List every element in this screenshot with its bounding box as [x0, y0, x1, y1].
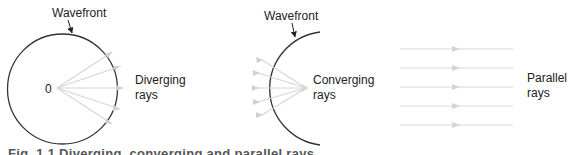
diverging-rays-label-line2: rays: [135, 88, 158, 102]
parallel-rays-label-line2: rays: [527, 86, 550, 100]
spherical-wavefront-circle: [8, 34, 118, 144]
ray: [258, 88, 306, 102]
parallel-panel: Parallel rays: [400, 46, 567, 128]
ray-arrowhead: [113, 105, 120, 111]
converging-rays: [252, 57, 309, 118]
ray: [57, 88, 120, 109]
wavefront-label: Wavefront: [264, 9, 319, 23]
origin-label: 0: [45, 82, 52, 96]
ray-arrowhead: [105, 52, 112, 58]
ray-arrowhead: [256, 57, 263, 63]
ray-arrowhead: [452, 122, 460, 128]
converging-rays-label: Converging: [313, 73, 374, 87]
ray: [258, 73, 306, 88]
diverging-rays-label: Diverging: [135, 73, 186, 87]
wavefront-label: Wavefront: [52, 6, 107, 20]
ray: [57, 66, 121, 88]
ray-arrowhead: [253, 99, 260, 105]
ray-arrowhead: [253, 70, 260, 76]
ray-arrowhead: [452, 103, 460, 109]
ray: [57, 52, 112, 88]
ray: [262, 60, 306, 88]
ray: [262, 88, 306, 115]
diverging-rays: [57, 52, 124, 124]
parallel-rays: [400, 46, 513, 128]
converging-rays-label-line2: rays: [313, 88, 336, 102]
ray-arrowhead: [452, 65, 460, 71]
converging-panel: Wavefront Converging rays: [252, 9, 374, 145]
caption-clip: Fig. 1.1 Diverging, converging and paral…: [0, 146, 573, 155]
ray-arrowhead: [116, 85, 123, 91]
ray-arrowhead: [256, 112, 263, 118]
ray: [57, 88, 112, 124]
parallel-rays-label: Parallel: [527, 71, 567, 85]
ray-arrowhead: [452, 46, 460, 52]
ray-arrowhead: [252, 85, 259, 91]
wavefront-pointer-arrow: [292, 23, 295, 37]
figure-caption: Fig. 1.1 Diverging, converging and paral…: [8, 146, 314, 155]
diverging-panel: 0 Wavefront Diverging rays: [8, 6, 186, 144]
wavefront-diagram: 0 Wavefront Diverging rays Wavefront Con…: [0, 0, 573, 155]
ray-arrowhead: [452, 84, 460, 90]
wavefront-pointer-arrow: [68, 20, 72, 33]
focus-arrowhead: [302, 84, 309, 92]
